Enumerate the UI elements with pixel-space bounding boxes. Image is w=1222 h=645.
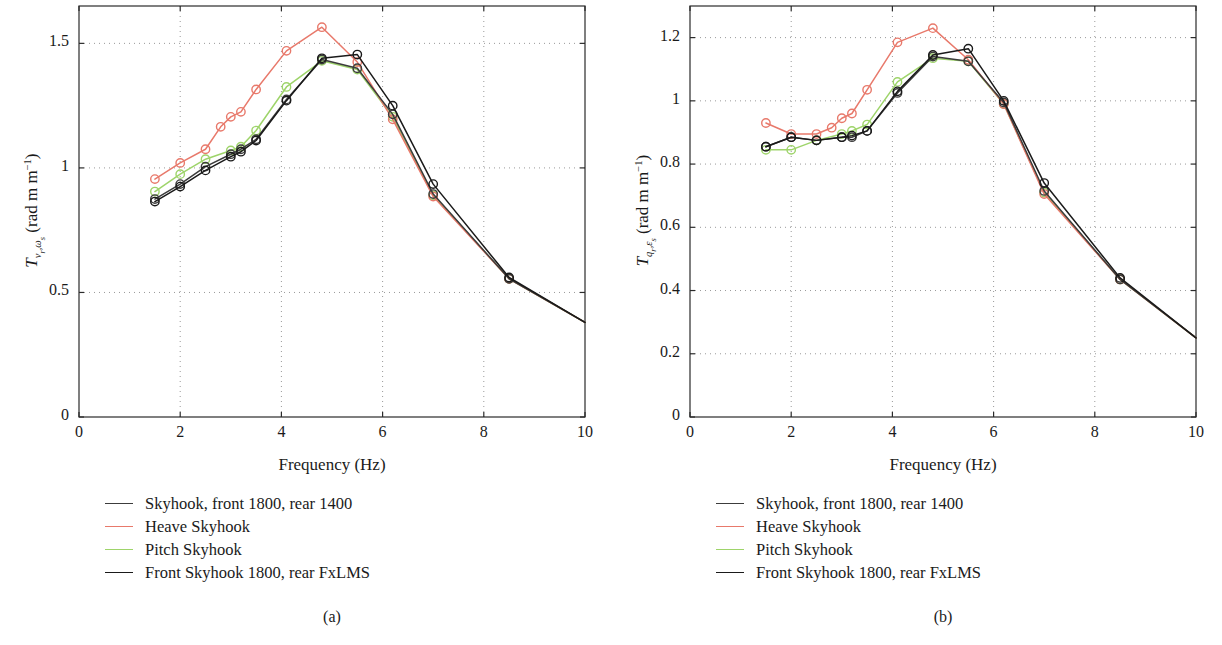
gridlines	[79, 6, 585, 417]
legend-item: Skyhook, front 1800, rear 1400	[105, 492, 370, 515]
axis-frame	[690, 6, 1196, 417]
data-series	[151, 23, 585, 322]
legend-item: Heave Skyhook	[105, 515, 370, 538]
legend-line-swatch	[716, 549, 744, 550]
x-axis-label-a: Frequency (Hz)	[79, 455, 585, 475]
legend-label: Pitch Skyhook	[145, 540, 242, 560]
y-tick-label: 1	[17, 157, 69, 175]
legend-item: Front Skyhook 1800, rear FxLMS	[105, 561, 370, 584]
data-series	[151, 57, 585, 323]
x-tick-label: 6	[353, 423, 413, 441]
y-tick-label: 0.2	[628, 343, 680, 361]
tick-marks	[79, 6, 585, 417]
x-tick-label: 8	[1065, 423, 1125, 441]
figure-root: Tvr,ωs (rad m m−1) Frequency (Hz) Skyhoo…	[0, 0, 1222, 645]
legend-line-swatch	[105, 549, 133, 550]
legend-b: Skyhook, front 1800, rear 1400Heave Skyh…	[716, 492, 981, 584]
legend-line-swatch	[716, 503, 744, 504]
x-axis-label-b: Frequency (Hz)	[690, 455, 1196, 475]
gridlines	[690, 6, 1196, 417]
legend-label: Pitch Skyhook	[756, 540, 853, 560]
x-tick-label: 4	[862, 423, 922, 441]
legend-label: Front Skyhook 1800, rear FxLMS	[756, 563, 981, 583]
y-tick-label: 0	[628, 406, 680, 424]
y-tick-label: 1	[628, 90, 680, 108]
legend-label: Front Skyhook 1800, rear FxLMS	[145, 563, 370, 583]
data-series	[762, 54, 1196, 338]
data-series	[151, 50, 585, 322]
y-tick-label: 1.2	[628, 27, 680, 45]
chart-panel-b: Tqr,εs (rad m m−1) Frequency (Hz) Skyhoo…	[611, 0, 1222, 645]
y-label-symbol: Tvr,ωs	[22, 236, 41, 267]
subplot-caption-a: (a)	[302, 608, 362, 626]
x-tick-label: 0	[49, 423, 109, 441]
y-tick-label: 0	[17, 406, 69, 424]
legend-label: Skyhook, front 1800, rear 1400	[145, 494, 352, 514]
plot-area-a	[0, 0, 611, 470]
legend-item: Front Skyhook 1800, rear FxLMS	[716, 561, 981, 584]
legend-line-swatch	[105, 526, 133, 527]
x-tick-label: 8	[454, 423, 514, 441]
legend-label: Skyhook, front 1800, rear 1400	[756, 494, 963, 514]
x-tick-label: 2	[150, 423, 210, 441]
x-tick-label: 6	[964, 423, 1024, 441]
y-axis-label-a: Tvr,ωs (rad m m−1)	[21, 110, 46, 310]
subplot-caption-b: (b)	[913, 608, 973, 626]
legend-label: Heave Skyhook	[756, 517, 861, 537]
x-tick-label: 10	[1166, 423, 1222, 441]
y-tick-label: 0.4	[628, 280, 680, 298]
x-tick-label: 10	[555, 423, 615, 441]
x-tick-label: 4	[251, 423, 311, 441]
axis-frame	[79, 6, 585, 417]
legend-item: Skyhook, front 1800, rear 1400	[716, 492, 981, 515]
legend-line-swatch	[716, 526, 744, 527]
tick-marks	[690, 6, 1196, 417]
legend-label: Heave Skyhook	[145, 517, 250, 537]
y-label-symbol: Tqr,εs	[633, 238, 652, 266]
legend-line-swatch	[105, 572, 133, 573]
x-tick-label: 0	[660, 423, 720, 441]
y-tick-label: 1.5	[17, 32, 69, 50]
data-series	[762, 44, 1196, 337]
legend-item: Pitch Skyhook	[716, 538, 981, 561]
legend-item: Heave Skyhook	[716, 515, 981, 538]
y-tick-label: 0.8	[628, 153, 680, 171]
data-series	[762, 52, 1196, 338]
legend-line-swatch	[716, 572, 744, 573]
legend-line-swatch	[105, 503, 133, 504]
legend-a: Skyhook, front 1800, rear 1400Heave Skyh…	[105, 492, 370, 584]
chart-panel-a: Tvr,ωs (rad m m−1) Frequency (Hz) Skyhoo…	[0, 0, 611, 645]
legend-item: Pitch Skyhook	[105, 538, 370, 561]
y-tick-label: 0.6	[628, 216, 680, 234]
y-tick-label: 0.5	[17, 281, 69, 299]
x-tick-label: 2	[761, 423, 821, 441]
plot-area-b	[611, 0, 1222, 470]
data-series	[151, 55, 585, 322]
